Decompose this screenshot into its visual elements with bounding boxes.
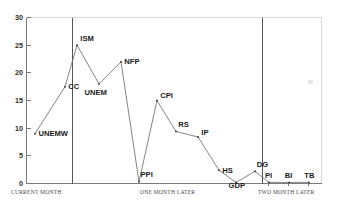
point-label-unem: UNEM bbox=[85, 88, 107, 97]
data-point-marker bbox=[138, 181, 140, 183]
region-label-current-month: CURRENT MONTH bbox=[11, 189, 62, 195]
point-label-cc: CC bbox=[68, 82, 79, 91]
point-label-ppi: PPI bbox=[141, 170, 153, 179]
data-point-marker bbox=[254, 170, 256, 172]
y-tick-label: 15 bbox=[15, 96, 23, 105]
plot-frame bbox=[26, 18, 322, 184]
data-point-marker bbox=[64, 86, 66, 88]
point-label-rs: RS bbox=[178, 120, 189, 129]
x-axis-region-labels: CURRENT MONTH ONE MONTH LATER TWO MONTH … bbox=[11, 189, 315, 195]
point-label-bi: BI bbox=[285, 171, 293, 180]
y-tick-label: 10 bbox=[15, 124, 23, 133]
data-point-marker bbox=[308, 181, 310, 183]
y-axis bbox=[27, 18, 31, 184]
scan-artifact bbox=[308, 80, 313, 84]
data-point-marker bbox=[156, 100, 158, 102]
region-label-one-month-later: ONE MONTH LATER bbox=[140, 189, 195, 195]
region-dividers bbox=[73, 18, 263, 184]
point-label-unemw: UNEMW bbox=[39, 129, 69, 138]
y-tick-label: 20 bbox=[15, 68, 23, 77]
data-point-marker bbox=[218, 169, 220, 171]
x-axis bbox=[27, 184, 323, 187]
data-point-marker bbox=[197, 136, 199, 138]
y-tick-label: 30 bbox=[15, 13, 23, 22]
line-chart: 30 25 20 15 10 5 0 bbox=[0, 0, 337, 206]
data-point-markers bbox=[34, 44, 310, 183]
point-label-gdp: GDP bbox=[229, 181, 245, 190]
data-point-marker bbox=[76, 44, 78, 46]
y-tick-label: 5 bbox=[19, 151, 23, 160]
data-point-marker bbox=[120, 61, 122, 63]
data-point-marker bbox=[34, 133, 36, 135]
data-point-marker bbox=[98, 83, 100, 85]
point-label-nfp: NFP bbox=[124, 57, 139, 66]
point-label-tb: TB bbox=[304, 171, 315, 180]
y-tick-label: 25 bbox=[15, 41, 23, 50]
data-point-labels: UNEMW CC ISM UNEM NFP PPI CPI RS IP HS G… bbox=[39, 34, 315, 191]
point-label-dg: DG bbox=[257, 160, 268, 169]
y-tick-label: 0 bbox=[19, 179, 23, 188]
data-point-marker bbox=[268, 181, 270, 183]
point-label-pi: PI bbox=[265, 171, 272, 180]
y-axis-tick-labels: 30 25 20 15 10 5 0 bbox=[15, 13, 23, 187]
data-point-marker bbox=[288, 181, 290, 183]
data-point-marker bbox=[175, 131, 177, 133]
region-label-two-month-later: TWO MONTH LATER bbox=[258, 189, 315, 195]
point-label-hs: HS bbox=[222, 166, 233, 175]
point-label-ip: IP bbox=[201, 128, 208, 137]
point-label-ism: ISM bbox=[80, 34, 94, 43]
point-label-cpi: CPI bbox=[160, 91, 173, 100]
